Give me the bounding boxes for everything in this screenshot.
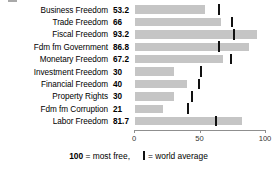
row-label: Fiscal Freedom — [0, 30, 108, 39]
row-value: 30 — [108, 68, 135, 77]
row-plot — [135, 41, 277, 53]
row-value: 93.2 — [108, 30, 135, 39]
legend-world-average-text: = world average — [148, 151, 208, 162]
world-average-marker — [198, 79, 200, 90]
row-plot — [135, 78, 277, 90]
row-plot — [135, 54, 277, 66]
value-bar — [135, 5, 205, 13]
row-value: 66 — [108, 18, 135, 27]
chart-row: Business Freedom53.2 — [0, 4, 277, 16]
row-value: 21 — [108, 105, 135, 114]
value-bar — [135, 18, 221, 26]
x-axis-tick-label: 50 — [195, 134, 203, 143]
world-average-marker — [218, 4, 220, 15]
row-plot — [135, 91, 277, 103]
row-label: Business Freedom — [0, 6, 108, 15]
chart-rows: Business Freedom53.2Trade Freedom66Fisca… — [0, 4, 277, 128]
world-average-marker — [215, 116, 217, 127]
value-bar — [135, 117, 242, 125]
row-value: 40 — [108, 80, 135, 89]
row-label: Labor Freedom — [0, 117, 108, 126]
row-value: 30 — [108, 92, 135, 101]
chart-row: Trade Freedom66 — [0, 16, 277, 28]
chart-row: Monetary Freedom67.2 — [0, 54, 277, 66]
row-label: Fdm fm Corruption — [0, 105, 108, 114]
chart-row: Fdm fm Government86.8 — [0, 41, 277, 53]
row-label: Investment Freedom — [0, 68, 108, 77]
legend-most-free-text: = most free, — [86, 151, 130, 162]
chart-row: Property Rights30 — [0, 91, 277, 103]
row-plot — [135, 66, 277, 78]
value-bar — [135, 92, 174, 100]
value-bar — [135, 55, 223, 63]
row-label: Monetary Freedom — [0, 55, 108, 64]
row-plot — [135, 29, 277, 41]
world-average-tick-icon — [143, 151, 145, 160]
row-label: Trade Freedom — [0, 18, 108, 27]
value-bar — [135, 43, 249, 51]
chart-row: Fiscal Freedom93.2 — [0, 29, 277, 41]
world-average-marker — [218, 41, 220, 52]
world-average-marker — [187, 103, 189, 114]
x-axis-tick-mark — [200, 130, 201, 133]
value-bar — [135, 67, 174, 75]
chart-legend: 100 = most free, = world average — [0, 150, 277, 162]
cropped-title-remnant — [8, 0, 17, 2]
chart-row: Fdm fm Corruption21 — [0, 103, 277, 115]
row-plot — [135, 4, 277, 16]
chart-row: Financial Freedom40 — [0, 78, 277, 90]
x-axis-tick-mark — [134, 130, 135, 133]
row-plot — [135, 103, 277, 115]
world-average-marker — [200, 66, 202, 77]
row-plot — [135, 116, 277, 128]
value-bar — [135, 105, 163, 113]
value-bar — [135, 80, 187, 88]
world-average-marker — [191, 91, 193, 102]
chart-row: Labor Freedom81.7 — [0, 116, 277, 128]
x-axis-tick-label: 0 — [132, 134, 136, 143]
world-average-marker — [230, 54, 232, 65]
world-average-marker — [231, 17, 233, 28]
row-label: Fdm fm Government — [0, 43, 108, 52]
x-axis: 050100 — [130, 130, 272, 148]
row-plot — [135, 16, 277, 28]
row-label: Property Rights — [0, 92, 108, 101]
freedom-index-bar-chart: Business Freedom53.2Trade Freedom66Fisca… — [0, 0, 277, 170]
row-value: 53.2 — [108, 6, 135, 15]
row-label: Financial Freedom — [0, 80, 108, 89]
chart-row: Investment Freedom30 — [0, 66, 277, 78]
world-average-marker — [233, 29, 235, 40]
x-axis-tick-mark — [265, 130, 266, 133]
value-bar — [135, 30, 257, 38]
row-value: 81.7 — [108, 117, 135, 126]
legend-most-free-value: 100 — [69, 151, 83, 162]
row-value: 67.2 — [108, 55, 135, 64]
x-axis-tick-label: 100 — [259, 134, 272, 143]
row-value: 86.8 — [108, 43, 135, 52]
